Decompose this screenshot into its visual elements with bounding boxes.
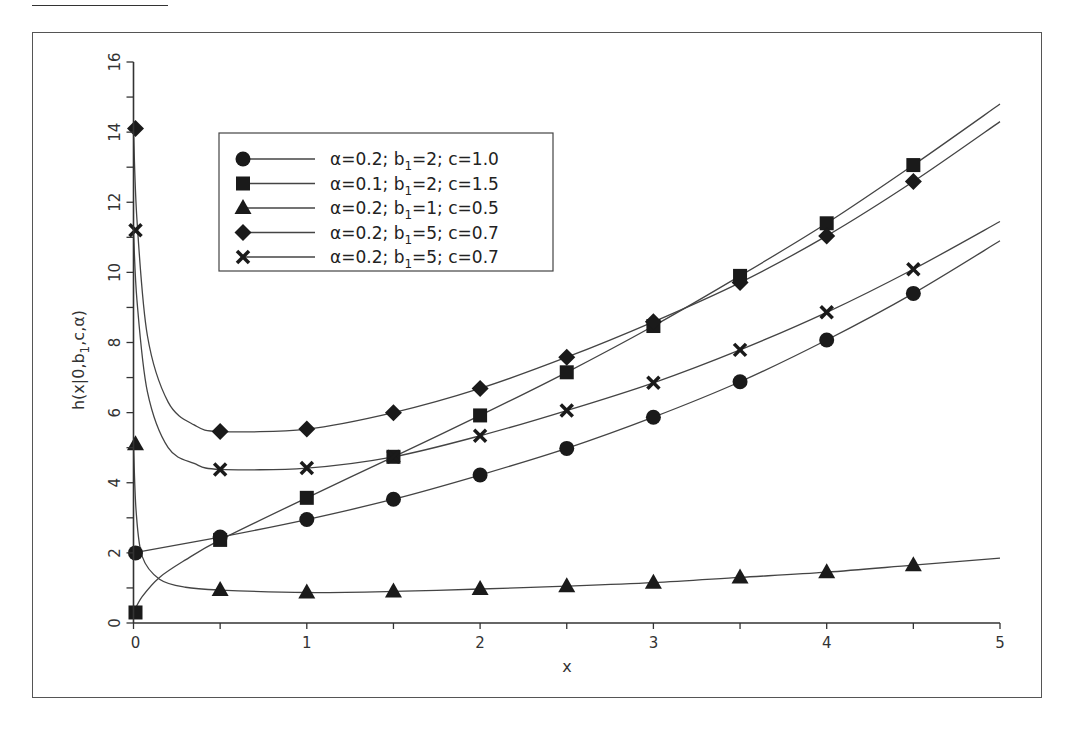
cross-marker	[130, 224, 142, 236]
square-marker	[560, 365, 574, 379]
cross-marker	[561, 405, 573, 417]
y-tick-label: 12	[106, 193, 124, 212]
square-marker	[129, 605, 143, 619]
x-axis-title: x	[562, 657, 571, 676]
diamond-marker	[298, 421, 315, 438]
x-tick-label: 5	[995, 634, 1005, 652]
y-tick-label: 8	[106, 338, 124, 348]
diamond-marker	[127, 120, 144, 137]
diamond-marker	[558, 349, 575, 366]
triangle-marker	[212, 581, 229, 596]
circle-marker	[299, 512, 314, 527]
triangle-marker	[732, 568, 749, 583]
cross-marker	[907, 263, 919, 275]
diamond-marker	[905, 173, 922, 190]
legend-square-icon	[236, 177, 250, 191]
x-tick-label: 4	[822, 634, 832, 652]
x-tick-label: 0	[131, 634, 141, 652]
triangle-marker	[645, 574, 662, 589]
x-tick-label: 3	[649, 634, 659, 652]
circle-marker	[819, 333, 834, 348]
y-axis-title: h(x|0,b1,c,α)	[69, 310, 92, 410]
triangle-marker	[905, 556, 922, 571]
triangle-marker	[558, 577, 575, 592]
diamond-marker	[385, 404, 402, 421]
series-line-circle	[134, 241, 1001, 553]
y-tick-label: 2	[106, 548, 124, 558]
cross-marker	[734, 344, 746, 356]
triangle-marker	[472, 580, 489, 595]
diamond-marker	[212, 423, 229, 440]
x-tick-label: 1	[302, 634, 312, 652]
square-marker	[473, 408, 487, 422]
circle-marker	[473, 468, 488, 483]
line-chart: 0123450246810121416 h(x|0,b1,c,α) x α=0.…	[0, 0, 1071, 736]
y-tick-label: 10	[106, 263, 124, 282]
circle-marker	[386, 492, 401, 507]
square-marker	[906, 158, 920, 172]
y-tick-label: 14	[106, 123, 124, 142]
triangle-marker	[818, 563, 835, 578]
y-tick-label: 4	[106, 478, 124, 488]
legend-circle-icon	[236, 152, 251, 167]
circle-marker	[733, 374, 748, 389]
square-marker	[213, 533, 227, 547]
circle-marker	[559, 441, 574, 456]
cross-marker	[474, 430, 486, 442]
x-tick-label: 2	[475, 634, 485, 652]
y-tick-label: 16	[106, 52, 124, 71]
diamond-marker	[472, 380, 489, 397]
legend: α=0.2; b1=2; c=1.0α=0.1; b1=2; c=1.5α=0.…	[219, 133, 553, 271]
y-tick-label: 0	[106, 618, 124, 628]
cross-marker	[821, 306, 833, 318]
triangle-marker	[385, 582, 402, 597]
circle-marker	[646, 410, 661, 425]
circle-marker	[906, 286, 921, 301]
triangle-marker	[298, 583, 315, 598]
square-marker	[300, 491, 314, 505]
y-tick-label: 6	[106, 408, 124, 418]
cross-marker	[647, 377, 659, 389]
